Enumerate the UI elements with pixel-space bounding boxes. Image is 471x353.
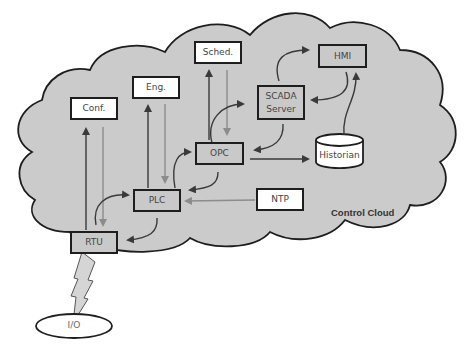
ntp-node: NTP: [256, 188, 304, 211]
sched-node: Sched.: [194, 41, 242, 64]
scada-server-node: SCADA Server: [257, 85, 305, 120]
io-label: I/O: [34, 320, 114, 330]
hmi-node: HMI: [318, 44, 367, 68]
wireless-link-icon: [71, 252, 95, 323]
eng-node: Eng.: [132, 76, 180, 99]
rtu-node: RTU: [70, 231, 118, 254]
historian-node: Historian: [316, 144, 363, 166]
opc-node: OPC: [195, 142, 244, 165]
control-cloud-label: Control Cloud: [331, 207, 394, 218]
plc-node: PLC: [133, 189, 181, 212]
conf-node: Conf.: [70, 97, 118, 120]
scada-label-line1: SCADA: [265, 90, 296, 103]
scada-label-line2: Server: [266, 103, 296, 116]
